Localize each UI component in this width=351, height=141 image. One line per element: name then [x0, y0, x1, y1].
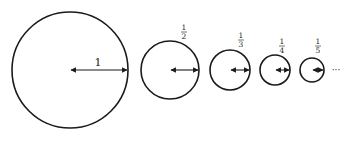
- circle-radius-half: 1 2: [141, 23, 199, 99]
- ellipsis: ···: [332, 65, 341, 75]
- svg-text:1: 1: [239, 31, 244, 40]
- svg-text:5: 5: [316, 46, 321, 55]
- fraction-label: 1 5: [315, 37, 321, 55]
- fraction-label: 1 4: [279, 37, 285, 55]
- fraction-label: 1 3: [238, 31, 244, 49]
- svg-text:1: 1: [280, 37, 285, 46]
- circle-sequence-diagram: 1 1 2 1 3 1 4 1: [0, 0, 351, 141]
- fraction-label: 1 2: [181, 23, 187, 41]
- circle-radius-third: 1 3: [210, 31, 250, 90]
- circle-radius-fifth: 1 5: [300, 37, 324, 82]
- svg-text:4: 4: [280, 46, 285, 55]
- radius-label: 1: [95, 56, 102, 69]
- svg-text:2: 2: [182, 32, 187, 41]
- circle-radius-1: 1: [12, 12, 128, 128]
- svg-text:1: 1: [182, 23, 187, 32]
- svg-text:3: 3: [239, 40, 244, 49]
- svg-text:1: 1: [316, 37, 321, 46]
- circle-radius-quarter: 1 4: [260, 37, 290, 85]
